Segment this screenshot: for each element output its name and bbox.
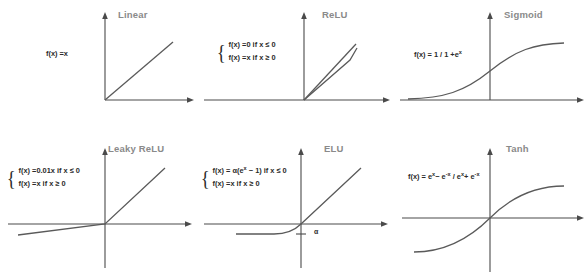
panel-sigmoid: Sigmoid f(x) = 1 / 1 +ex: [392, 0, 588, 140]
leaky-relu-brace: {: [7, 168, 16, 187]
elu-alpha-label: α: [314, 228, 318, 235]
leaky-relu-formula-lines: f(x) =0.01x if x ≤ 0 f(x) =x if x ≥ 0: [19, 165, 80, 189]
sigmoid-formula: f(x) = 1 / 1 +ex: [414, 49, 462, 60]
relu-title: ReLU: [322, 9, 348, 20]
linear-y-arrow: [102, 12, 108, 19]
linear-x-arrow: [187, 97, 194, 103]
sigmoid-y-arrow: [487, 12, 493, 19]
tanh-plot: [392, 140, 588, 280]
panel-relu: ReLU { f(x) =0 if x ≤ 0 f(x) =x if x ≥ 0: [196, 0, 392, 140]
leaky-relu-x-arrow: [185, 221, 192, 227]
leaky-relu-plot: [0, 140, 196, 280]
panel-linear: Linear f(x) =x: [0, 0, 196, 140]
panel-elu: ELU { f(x) = α(ex − 1) if x ≤ 0 f(x) =x …: [196, 140, 392, 280]
relu-formula-group: { f(x) =0 if x ≤ 0 f(x) =x if x ≥ 0: [216, 39, 276, 63]
leaky-relu-formula-line-2: f(x) =x if x ≥ 0: [19, 178, 80, 189]
tanh-x-arrow: [577, 215, 584, 221]
elu-formula-lines: f(x) = α(ex − 1) if x ≤ 0 f(x) =x if x ≥…: [213, 165, 287, 189]
tanh-y-arrow: [487, 148, 493, 155]
relu-formula-lines: f(x) =0 if x ≤ 0 f(x) =x if x ≥ 0: [229, 39, 276, 63]
activation-functions-figure: Linear f(x) =x ReLU { f(x) =0 if x ≤ 0 f…: [0, 0, 588, 280]
linear-formula: f(x) =x: [46, 48, 68, 59]
relu-formula-line-1: f(x) =0 if x ≤ 0: [229, 39, 276, 50]
leaky-relu-y-arrow: [102, 148, 108, 155]
tanh-title: Tanh: [506, 143, 529, 154]
linear-plot: [0, 0, 196, 140]
elu-title: ELU: [324, 143, 344, 154]
elu-plot: [196, 140, 392, 280]
sigmoid-x-arrow: [577, 97, 584, 103]
elu-formula-line-2: f(x) =x if x ≥ 0: [213, 178, 287, 189]
relu-brace: {: [217, 42, 226, 61]
elu-formula-group: { f(x) = α(ex − 1) if x ≤ 0 f(x) =x if x…: [200, 165, 287, 189]
elu-formula-line-1: f(x) = α(ex − 1) if x ≤ 0: [213, 165, 287, 176]
leaky-relu-formula-group: { f(x) =0.01x if x ≤ 0 f(x) =x if x ≥ 0: [6, 165, 80, 189]
tanh-formula: f(x) = ex− e-x / ex+ e-x: [408, 171, 480, 182]
sigmoid-plot: [392, 0, 588, 140]
relu-plot: [196, 0, 392, 140]
tanh-curve: [414, 186, 564, 252]
sigmoid-title: Sigmoid: [504, 9, 543, 20]
elu-brace: {: [201, 168, 210, 187]
panel-tanh: Tanh f(x) = ex− e-x / ex+ e-x: [392, 140, 588, 280]
sigmoid-formula-base: f(x) = 1 / 1 +e: [414, 50, 459, 59]
leaky-relu-formula-line-1: f(x) =0.01x if x ≤ 0: [19, 165, 80, 176]
elu-y-arrow: [298, 148, 304, 155]
linear-curve: [105, 42, 173, 100]
sigmoid-formula-exponent: x: [459, 49, 462, 55]
linear-title: Linear: [118, 9, 148, 20]
relu-y-arrow: [301, 12, 307, 19]
panel-leaky-relu: Leaky ReLU { f(x) =0.01x if x ≤ 0 f(x) =…: [0, 140, 196, 280]
relu-positive-ray: [304, 44, 356, 100]
relu-formula-line-2: f(x) =x if x ≥ 0: [229, 52, 276, 63]
leaky-relu-title: Leaky ReLU: [108, 143, 164, 154]
relu-x-arrow: [383, 97, 390, 103]
elu-x-arrow: [381, 221, 388, 227]
